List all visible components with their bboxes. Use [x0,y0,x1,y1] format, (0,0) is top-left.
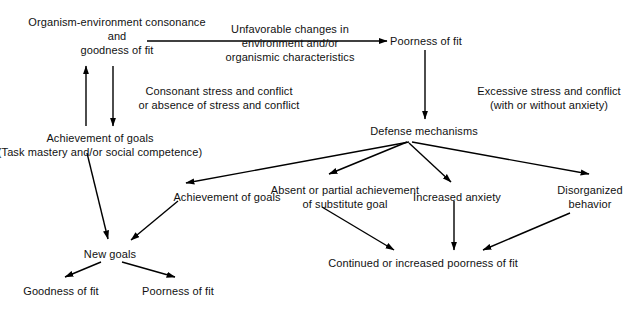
edge-disorganized-to-continued [483,213,570,250]
node-achievement-of-goals-left: Achievement of goals (Task mastery and/o… [0,131,202,159]
edge-defense-to-increased-anxiety [409,143,451,182]
label-excessive-stress: Excessive stress and conflict (with or w… [477,84,621,112]
label-line: Consonant stress and conflict [138,84,299,98]
node-continued-or-increased-poorness-of-fit: Continued or increased poorness of fit [328,256,518,270]
node-line: Organism-environment consonance [28,15,205,29]
label-consonant-stress: Consonant stress and conflict or absence… [138,84,299,112]
edge-achievement-left-to-new-goals [87,153,108,239]
diagram-canvas: Organism-environment consonance and good… [0,0,641,309]
edge-new-goals-to-poorness [122,262,175,277]
node-line: Poorness of fit [142,284,214,298]
node-line: Defense mechanisms [370,124,478,138]
label-line: environment and/or [225,36,354,50]
node-line: Continued or increased poorness of fit [328,256,518,270]
node-line: goodness of fit [28,43,205,57]
node-poorness-of-fit-top: Poorness of fit [390,34,462,48]
node-line: Achievement of goals [0,131,202,145]
node-absent-or-partial-achievement: Absent or partial achievement of substit… [271,183,419,211]
edge-defense-to-disorganized [412,142,589,174]
label-line: Excessive stress and conflict [477,84,621,98]
node-line: (Task mastery and/or social competence) [0,145,202,159]
edge-achievement-mid-to-new-goals [131,201,178,240]
node-increased-anxiety: Increased anxiety [413,190,501,204]
node-line: Absent or partial achievement [271,183,419,197]
node-line: Disorganized [557,183,622,197]
node-line: and [28,29,205,43]
label-line: Unfavorable changes in [225,22,354,36]
label-line: or absence of stress and conflict [138,98,299,112]
node-line: Goodness of fit [23,284,99,298]
node-line: behavior [557,197,622,211]
node-organism-environment-consonance: Organism-environment consonance and good… [28,15,205,57]
node-disorganized-behavior: Disorganized behavior [557,183,622,211]
edge-defense-to-absent-partial [329,142,407,174]
label-line: (with or without anxiety) [477,98,621,112]
node-goodness-of-fit-bottom: Goodness of fit [23,284,99,298]
node-line: New goals [84,247,136,261]
node-line: Increased anxiety [413,190,501,204]
node-poorness-of-fit-bottom: Poorness of fit [142,284,214,298]
edge-defense-to-achievement-mid [186,142,409,183]
edge-absent-to-continued [322,207,394,250]
node-line: of substitute goal [271,197,419,211]
node-line: Poorness of fit [390,34,462,48]
label-line: organismic characteristics [225,50,354,64]
edge-new-goals-to-goodness [65,262,101,277]
node-achievement-of-goals-mid: Achievement of goals [173,190,280,204]
node-new-goals: New goals [84,247,136,261]
label-unfavorable-changes: Unfavorable changes in environment and/o… [225,22,354,64]
node-defense-mechanisms: Defense mechanisms [370,124,478,138]
node-line: Achievement of goals [173,190,280,204]
